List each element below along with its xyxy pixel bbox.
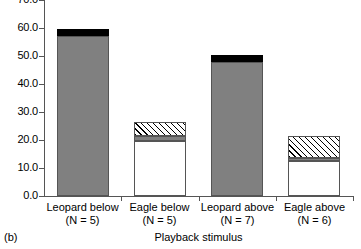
category-label: Eagle below(N = 5) bbox=[121, 201, 198, 227]
bar bbox=[57, 29, 109, 196]
category-name: Eagle above bbox=[284, 201, 345, 213]
bar-segment-solid-black bbox=[211, 55, 263, 62]
y-tick-label: 60.0 bbox=[0, 22, 38, 33]
bar-segment-hatch bbox=[288, 136, 340, 158]
y-axis-line bbox=[44, 0, 45, 196]
bar-chart: 0.010.020.030.040.050.060.070.0 Leopard … bbox=[0, 0, 361, 249]
bar bbox=[288, 136, 340, 196]
category-label: Eagle above(N = 6) bbox=[276, 201, 353, 227]
bar-segment-solid-black bbox=[57, 29, 109, 36]
panel-label: (b) bbox=[4, 231, 17, 243]
x-tick bbox=[353, 196, 354, 201]
y-tick-label: 0.0 bbox=[0, 190, 38, 201]
bar bbox=[211, 55, 263, 196]
bar-segment-white bbox=[134, 141, 186, 196]
y-tick-30.0 bbox=[39, 112, 45, 113]
category-label: Leopard above(N = 7) bbox=[199, 201, 276, 227]
y-tick-70.0 bbox=[39, 0, 45, 1]
category-name: Leopard above bbox=[201, 201, 274, 213]
y-tick-label: 20.0 bbox=[0, 134, 38, 145]
bar-segment-solid-gray bbox=[211, 62, 263, 196]
bar-segment-hatch bbox=[134, 122, 186, 136]
bar-segment-solid-gray bbox=[57, 36, 109, 196]
category-name: Eagle below bbox=[130, 201, 190, 213]
category-name: Leopard below bbox=[46, 201, 118, 213]
category-sample-size: (N = 5) bbox=[44, 214, 121, 227]
bar bbox=[134, 122, 186, 196]
category-sample-size: (N = 5) bbox=[121, 214, 198, 227]
category-sample-size: (N = 7) bbox=[199, 214, 276, 227]
y-tick-40.0 bbox=[39, 84, 45, 85]
bar-segment-white bbox=[288, 161, 340, 196]
category-label: Leopard below(N = 5) bbox=[44, 201, 121, 227]
y-tick-label: 10.0 bbox=[0, 162, 38, 173]
y-tick-10.0 bbox=[39, 168, 45, 169]
y-tick-label: 70.0 bbox=[0, 0, 38, 5]
category-sample-size: (N = 6) bbox=[276, 214, 353, 227]
bar-segment-solid-gray bbox=[134, 136, 186, 141]
y-tick-label: 40.0 bbox=[0, 78, 38, 89]
y-tick-50.0 bbox=[39, 56, 45, 57]
bar-segment-solid-gray bbox=[288, 158, 340, 161]
y-tick-60.0 bbox=[39, 28, 45, 29]
y-tick-20.0 bbox=[39, 140, 45, 141]
x-axis-title: Playback stimulus bbox=[44, 231, 353, 243]
y-tick-0.0 bbox=[39, 196, 45, 197]
y-tick-label: 30.0 bbox=[0, 106, 38, 117]
y-tick-label: 50.0 bbox=[0, 50, 38, 61]
